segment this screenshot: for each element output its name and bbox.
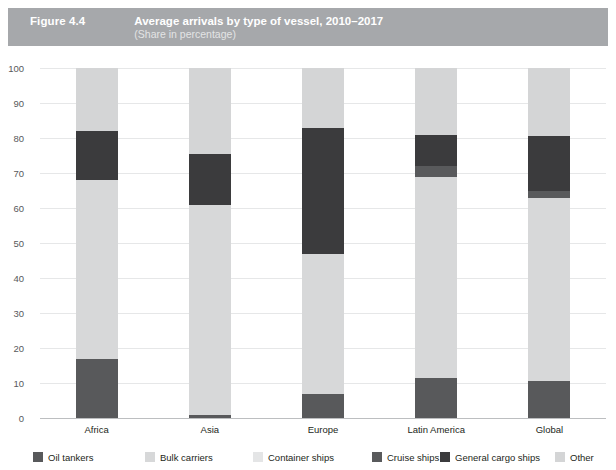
- legend-swatch-icon: [33, 452, 43, 462]
- legend-item-bulk-carriers[interactable]: Bulk carriers: [145, 452, 213, 463]
- bar-asia[interactable]: [189, 68, 231, 418]
- bar-segment-oil-tankers[interactable]: [415, 378, 457, 418]
- x-axis-label-africa: Africa: [84, 424, 108, 435]
- legend-label: Bulk carriers: [160, 452, 213, 463]
- bar-segment-bulk-carriers[interactable]: [302, 254, 344, 394]
- bar-segment-other[interactable]: [415, 68, 457, 135]
- x-axis-label-global: Global: [536, 424, 563, 435]
- y-axis-tick-label: 40: [0, 273, 24, 284]
- y-axis-tick-label: 70: [0, 168, 24, 179]
- legend-item-cruise-ships[interactable]: Cruise ships: [372, 452, 439, 463]
- figure-header-band: Figure 4.4 Average arrivals by type of v…: [8, 8, 608, 46]
- bar-segment-general-cargo-ships[interactable]: [528, 136, 570, 190]
- bar-segment-other[interactable]: [528, 68, 570, 136]
- bar-segment-bulk-carriers[interactable]: [189, 205, 231, 415]
- legend-label: Cruise ships: [387, 452, 439, 463]
- y-axis-tick-label: 20: [0, 343, 24, 354]
- bar-segment-oil-tankers[interactable]: [189, 415, 231, 419]
- legend-swatch-icon: [145, 452, 155, 462]
- legend-item-other[interactable]: Other: [555, 452, 594, 463]
- figure-subtitle: (Share in percentage): [134, 28, 383, 41]
- legend-label: Oil tankers: [48, 452, 93, 463]
- bar-europe[interactable]: [302, 68, 344, 418]
- figure-title: Average arrivals by type of vessel, 2010…: [134, 14, 383, 28]
- chart-legend: Oil tankersBulk carriersContainer shipsC…: [0, 448, 616, 466]
- chart-area: 0102030405060708090100AfricaAsiaEuropeLa…: [0, 55, 616, 435]
- bar-segment-general-cargo-ships[interactable]: [76, 131, 118, 180]
- bar-segment-general-cargo-ships[interactable]: [415, 135, 457, 167]
- bar-segment-oil-tankers[interactable]: [76, 359, 118, 419]
- y-axis-tick-label: 50: [0, 238, 24, 249]
- bar-segment-cruise-ships[interactable]: [415, 166, 457, 177]
- legend-item-general-cargo-ships[interactable]: General cargo ships: [440, 452, 540, 463]
- x-axis-label-asia: Asia: [201, 424, 219, 435]
- y-axis-tick-label: 30: [0, 308, 24, 319]
- legend-swatch-icon: [372, 452, 382, 462]
- legend-label: Other: [570, 452, 594, 463]
- x-axis-label-latin-america: Latin America: [407, 424, 465, 435]
- bar-segment-cruise-ships[interactable]: [528, 191, 570, 198]
- bar-segment-bulk-carriers[interactable]: [528, 198, 570, 382]
- bar-latin-america[interactable]: [415, 68, 457, 418]
- y-axis-tick-label: 0: [0, 413, 24, 424]
- legend-item-container-ships[interactable]: Container ships: [253, 452, 334, 463]
- y-axis-tick-label: 10: [0, 378, 24, 389]
- bar-segment-general-cargo-ships[interactable]: [302, 128, 344, 254]
- bar-segment-general-cargo-ships[interactable]: [189, 154, 231, 205]
- y-axis-tick-label: 60: [0, 203, 24, 214]
- legend-swatch-icon: [440, 452, 450, 462]
- figure-title-block: Average arrivals by type of vessel, 2010…: [134, 14, 383, 41]
- legend-swatch-icon: [555, 452, 565, 462]
- bar-segment-other[interactable]: [189, 68, 231, 154]
- bar-segment-oil-tankers[interactable]: [528, 381, 570, 418]
- bar-segment-other[interactable]: [76, 68, 118, 131]
- bar-segment-bulk-carriers[interactable]: [415, 177, 457, 378]
- plot-canvas: 0102030405060708090100AfricaAsiaEuropeLa…: [40, 68, 606, 418]
- x-axis-label-europe: Europe: [308, 424, 339, 435]
- bar-segment-bulk-carriers[interactable]: [76, 180, 118, 359]
- y-axis-tick-label: 80: [0, 133, 24, 144]
- legend-label: General cargo ships: [455, 452, 540, 463]
- bar-segment-oil-tankers[interactable]: [302, 394, 344, 419]
- gridline-0: [40, 418, 606, 419]
- bar-segment-other[interactable]: [302, 68, 344, 128]
- bar-africa[interactable]: [76, 68, 118, 418]
- y-axis-tick-label: 90: [0, 98, 24, 109]
- y-axis-tick-label: 100: [0, 63, 24, 74]
- bar-global[interactable]: [528, 68, 570, 418]
- legend-item-oil-tankers[interactable]: Oil tankers: [33, 452, 93, 463]
- legend-swatch-icon: [253, 452, 263, 462]
- figure-number: Figure 4.4: [30, 15, 85, 27]
- legend-label: Container ships: [268, 452, 334, 463]
